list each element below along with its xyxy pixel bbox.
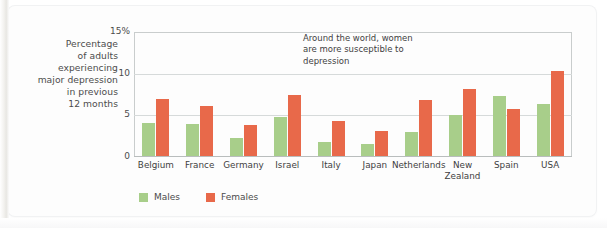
chart-legend: Males Females <box>139 192 276 202</box>
legend-label-males: Males <box>154 192 180 202</box>
bar-females-italy <box>332 121 345 156</box>
bar-males-usa <box>537 104 550 157</box>
bar-females-belgium <box>156 99 169 157</box>
bar-males-belgium <box>142 123 155 156</box>
bar-males-israel <box>274 117 287 156</box>
bar-males-netherlands <box>405 132 418 156</box>
annotation-line-3: depression <box>303 56 349 66</box>
bar-group <box>186 32 213 156</box>
bar-females-france <box>200 106 213 156</box>
bar-group <box>493 32 520 156</box>
bar-group <box>230 32 257 156</box>
page-edge-left <box>0 0 9 228</box>
bar-males-germany <box>230 138 243 156</box>
x-axis-label-newzealand-line-2: Zealand <box>423 171 503 182</box>
bar-females-israel <box>288 95 301 156</box>
bar-group <box>537 32 564 156</box>
legend-item-females[interactable]: Females <box>206 192 258 202</box>
page-edge-bottom <box>0 218 607 228</box>
bar-males-new-zealand <box>449 115 462 156</box>
legend-swatch-males-icon <box>139 193 148 202</box>
bar-females-germany <box>244 125 257 156</box>
x-axis-label-usa: USA <box>510 160 590 171</box>
bar-females-new-zealand <box>463 89 476 156</box>
bar-males-italy <box>318 142 331 156</box>
bar-males-france <box>186 124 199 157</box>
y-axis-caption-line-5: in previous <box>18 86 118 98</box>
y-axis-caption-line-2: of adults <box>18 50 118 62</box>
bar-males-spain <box>493 96 506 156</box>
plot-frame-left <box>134 32 135 157</box>
x-axis-label-usa-line-1: USA <box>510 160 590 171</box>
bar-males-japan <box>361 144 374 157</box>
plot-frame-right <box>571 32 572 157</box>
y-axis-caption-line-1: Percentage <box>18 38 118 50</box>
chart-screenshot: Percentage of adults experiencing major … <box>0 0 607 228</box>
bar-females-japan <box>375 131 388 156</box>
bar-group <box>274 32 301 156</box>
annotation-line-2: are more susceptible to <box>303 44 404 54</box>
bar-females-usa <box>551 71 564 156</box>
legend-item-males[interactable]: Males <box>139 192 180 202</box>
plot-baseline-0 <box>134 156 572 157</box>
y-tick-15: 15% <box>98 26 130 36</box>
y-tick-10: 10 <box>98 68 130 78</box>
bar-group <box>142 32 169 156</box>
y-tick-5: 5 <box>98 109 130 119</box>
legend-label-females: Females <box>221 192 258 202</box>
bar-females-netherlands <box>419 100 432 156</box>
legend-swatch-females-icon <box>206 193 215 202</box>
chart-annotation: Around the world, women are more suscept… <box>303 33 463 67</box>
bar-females-spain <box>507 109 520 157</box>
x-axis-labels: BelgiumFranceGermanyIsraelItalyJapanNeth… <box>134 160 572 186</box>
annotation-line-1: Around the world, women <box>303 33 413 43</box>
